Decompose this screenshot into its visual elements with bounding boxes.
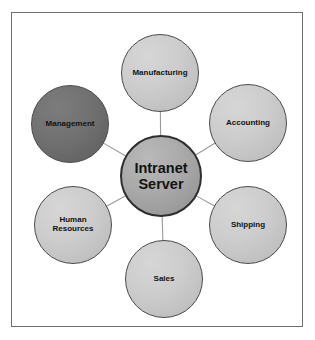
connector-intranet-server-to-sales: [162, 216, 163, 241]
diagram-page: ManufacturingAccountingShippingSalesHuma…: [0, 0, 315, 340]
node-label-intranet-server: IntranetServer: [130, 160, 191, 192]
node-label-management: Management: [42, 120, 99, 129]
node-label-sales: Sales: [150, 275, 179, 284]
node-accounting[interactable]: Accounting: [209, 84, 287, 162]
node-shipping[interactable]: Shipping: [209, 186, 287, 264]
node-label-accounting: Accounting: [222, 119, 274, 128]
node-management[interactable]: Management: [31, 85, 109, 163]
node-manufacturing[interactable]: Manufacturing: [121, 34, 199, 112]
node-label-shipping: Shipping: [227, 221, 269, 230]
connector-intranet-server-to-accounting: [195, 143, 215, 155]
node-label-human-resources: HumanResources: [49, 216, 98, 234]
connector-intranet-server-to-human-resources: [106, 195, 126, 206]
node-sales[interactable]: Sales: [125, 240, 203, 318]
node-label-manufacturing: Manufacturing: [128, 69, 191, 78]
node-intranet-server[interactable]: IntranetServer: [120, 135, 202, 217]
connector-intranet-server-to-management: [103, 143, 126, 156]
connector-intranet-server-to-shipping: [196, 196, 215, 207]
node-human-resources[interactable]: HumanResources: [34, 186, 112, 264]
